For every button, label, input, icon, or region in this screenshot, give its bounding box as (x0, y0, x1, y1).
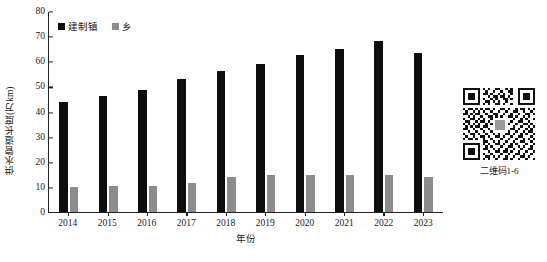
bar-town[interactable] (99, 96, 108, 212)
bar-village[interactable] (267, 175, 276, 212)
y-axis-title: 供水管道长度(万km) (2, 46, 18, 216)
bar-town[interactable] (217, 71, 226, 212)
bar-town[interactable] (296, 55, 305, 212)
chart-page: 供水管道长度(万km) 建制镇 乡 01020304050607080 2014… (0, 0, 547, 262)
bar-group[interactable] (88, 12, 127, 212)
bar-groups (49, 12, 443, 212)
y-axis-tick-label: 20 (19, 158, 45, 168)
x-axis-tick-label: 2017 (167, 216, 207, 230)
bar-group[interactable] (364, 12, 403, 212)
bar-group[interactable] (404, 12, 443, 212)
y-axis-tick-label: 10 (19, 183, 45, 193)
qr-code-icon (463, 88, 535, 160)
x-axis-tick-label: 2015 (88, 216, 128, 230)
bar-group[interactable] (207, 12, 246, 212)
x-axis-tick-label: 2014 (48, 216, 88, 230)
x-axis-tick-label: 2018 (206, 216, 246, 230)
x-axis-tick-label: 2022 (364, 216, 404, 230)
bar-chart: 供水管道长度(万km) 建制镇 乡 01020304050607080 2014… (0, 0, 452, 262)
y-axis-tick-label: 30 (19, 133, 45, 143)
y-axis-tick-label: 70 (19, 32, 45, 42)
x-axis-tick-labels: 2014201520162017201820192020202120222023 (48, 216, 443, 230)
bar-village[interactable] (149, 186, 158, 212)
qr-code-block: 二维码1-6 (459, 88, 539, 188)
plot-area: 01020304050607080 (48, 12, 443, 213)
bar-group[interactable] (325, 12, 364, 212)
x-axis-tick-label: 2019 (246, 216, 286, 230)
bar-village[interactable] (424, 177, 433, 212)
bar-village[interactable] (346, 175, 355, 212)
qr-code-caption: 二维码1-6 (480, 164, 519, 177)
y-axis-tick-label: 40 (19, 108, 45, 118)
y-axis-tick-label: 60 (19, 58, 45, 68)
bar-town[interactable] (177, 79, 186, 212)
bar-group[interactable] (246, 12, 285, 212)
bar-village[interactable] (227, 177, 236, 212)
bar-town[interactable] (335, 49, 344, 212)
bar-group[interactable] (167, 12, 206, 212)
bar-town[interactable] (374, 41, 383, 212)
bar-town[interactable] (59, 102, 68, 212)
y-axis-tick-label: 50 (19, 83, 45, 93)
y-axis-tick-label: 0 (19, 208, 45, 218)
x-axis-tick-label: 2020 (285, 216, 325, 230)
bar-village[interactable] (188, 183, 197, 212)
bar-town[interactable] (138, 90, 147, 212)
bar-group[interactable] (285, 12, 324, 212)
y-axis-tick-label: 80 (19, 7, 45, 17)
bar-town[interactable] (256, 64, 265, 212)
x-axis-tick-label: 2023 (404, 216, 444, 230)
bar-village[interactable] (306, 175, 315, 212)
bar-group[interactable] (128, 12, 167, 212)
bar-village[interactable] (109, 186, 118, 212)
x-axis-tick-label: 2016 (127, 216, 167, 230)
x-axis-title: 年份 (48, 231, 443, 245)
x-axis-tick-label: 2021 (325, 216, 365, 230)
bar-village[interactable] (385, 175, 394, 212)
bar-town[interactable] (414, 53, 423, 212)
bar-village[interactable] (70, 187, 79, 212)
bar-group[interactable] (49, 12, 88, 212)
